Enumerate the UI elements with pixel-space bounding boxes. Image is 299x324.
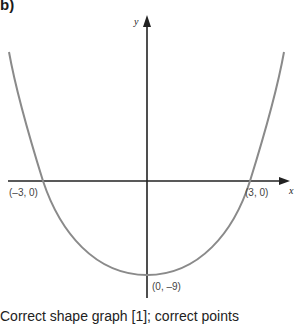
left-intercept-label: (–3, 0) <box>9 187 38 198</box>
x-axis-label: x <box>289 185 293 196</box>
vertex-label: (0, –9) <box>152 281 181 292</box>
caption: Correct shape graph [1]; correct points <box>0 308 239 324</box>
y-axis-label: y <box>134 16 138 27</box>
graph <box>0 0 299 324</box>
right-intercept-label: (3, 0) <box>245 187 268 198</box>
y-axis-arrow-icon <box>143 15 151 27</box>
x-axis-arrow-icon <box>279 177 290 185</box>
